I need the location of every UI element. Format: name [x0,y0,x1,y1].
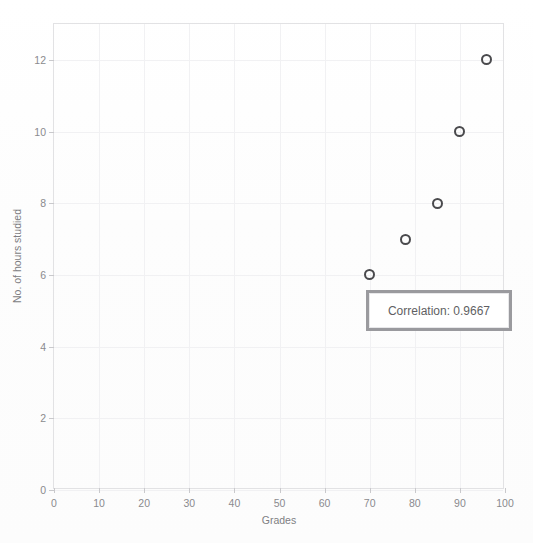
x-tick-label: 20 [138,497,150,509]
y-tick-mark [49,132,54,133]
x-tick-label: 100 [496,497,514,509]
y-tick-label: 2 [40,412,46,424]
plot-area: 0102030405060708090100 024681012 [53,23,504,489]
chart-screenshot: 0102030405060708090100 024681012 No. of … [0,0,533,543]
x-tick-label: 0 [51,497,57,509]
y-tick-label: 4 [40,341,46,353]
x-tick-label: 50 [274,497,286,509]
x-axis-title: Grades [262,514,296,526]
data-point-marker [364,269,375,280]
x-tick-mark [189,488,190,493]
x-tick-label: 30 [183,497,195,509]
gridline-horizontal [54,275,503,276]
correlation-annotation-inner: Correlation: 0.9667 [369,293,509,328]
x-tick-mark [280,488,281,493]
y-tick-label: 0 [40,484,46,496]
correlation-annotation-box: Correlation: 0.9667 [366,290,512,331]
x-tick-label: 70 [364,497,376,509]
y-tick-label: 6 [40,269,46,281]
x-tick-mark [460,488,461,493]
y-tick-mark [49,203,54,204]
y-tick-mark [49,60,54,61]
cropped-title-remnant [95,0,395,3]
x-tick-mark [54,488,55,493]
x-tick-mark [370,488,371,493]
y-tick-mark [49,275,54,276]
x-tick-mark [505,488,506,493]
x-tick-mark [325,488,326,493]
data-point-marker [454,126,465,137]
y-tick-label: 8 [40,197,46,209]
x-tick-mark [144,488,145,493]
y-tick-label: 10 [34,126,46,138]
data-point-marker [481,54,492,65]
y-tick-label: 12 [34,54,46,66]
gridline-horizontal [54,418,503,419]
gridline-horizontal [54,60,503,61]
gridline-horizontal [54,490,503,491]
y-axis-title: No. of hours studied [11,209,23,303]
x-tick-mark [415,488,416,493]
data-point-marker [400,234,411,245]
x-tick-label: 10 [93,497,105,509]
correlation-annotation-text: Correlation: 0.9667 [388,304,490,318]
gridline-horizontal [54,347,503,348]
y-tick-mark [49,490,54,491]
x-tick-mark [234,488,235,493]
gridline-horizontal [54,132,503,133]
y-tick-mark [49,418,54,419]
x-tick-label: 90 [454,497,466,509]
data-point-marker [432,198,443,209]
x-tick-mark [99,488,100,493]
x-tick-label: 40 [229,497,241,509]
x-tick-label: 60 [319,497,331,509]
y-tick-mark [49,347,54,348]
x-tick-label: 80 [409,497,421,509]
